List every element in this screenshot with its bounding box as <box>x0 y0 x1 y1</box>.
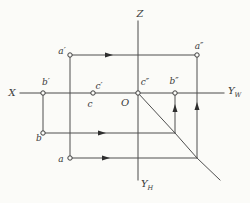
projection-diagram: a′a″b′b″c′c″cabZXYWYHO <box>0 0 250 203</box>
diagram-canvas: a′a″b′b″c′c″cabZXYWYHO <box>0 0 250 203</box>
label-b: b <box>36 133 42 143</box>
label-b-doubleprime: b″ <box>169 76 179 86</box>
origin-label-main: O <box>121 97 129 108</box>
point-a-prime-marker <box>68 53 72 57</box>
point-b-prime-marker <box>41 91 45 95</box>
point-a-marker <box>68 156 72 160</box>
label-a: a <box>58 154 63 164</box>
x-axis-label: X <box>7 87 16 98</box>
label-c-prime: c′ <box>95 81 102 91</box>
point-c-doubleprime-marker <box>136 91 140 95</box>
arrow-a-prime-line-icon <box>105 53 113 58</box>
point-a-doubleprime-marker <box>195 53 199 57</box>
label-c: c <box>87 99 92 109</box>
yh-axis-label: YH <box>141 178 154 192</box>
point-c-and-c-prime-marker <box>91 91 95 95</box>
arrow-up-to-a-doubleprime-icon <box>195 102 200 110</box>
yh-axis-label-subscript: H <box>147 184 154 192</box>
x-axis-label-main: X <box>7 87 16 98</box>
arrow-a-line-icon <box>102 156 110 161</box>
origin-label: O <box>121 97 129 108</box>
point-b-doubleprime-marker <box>173 91 177 95</box>
z-axis-label-main: Z <box>136 8 145 19</box>
label-b-prime: b′ <box>42 77 50 87</box>
label-c-doubleprime: c″ <box>141 77 150 87</box>
label-a-doubleprime: a″ <box>195 41 204 51</box>
45-degree-transfer-line <box>138 93 220 180</box>
yw-axis-label-subscript: W <box>235 91 243 99</box>
z-axis-label: Z <box>136 8 145 19</box>
arrow-b-line-icon <box>98 131 106 136</box>
arrow-up-to-b-doubleprime-icon <box>173 104 178 112</box>
label-a-prime: a′ <box>58 46 65 56</box>
yw-axis-label: YW <box>228 85 243 99</box>
